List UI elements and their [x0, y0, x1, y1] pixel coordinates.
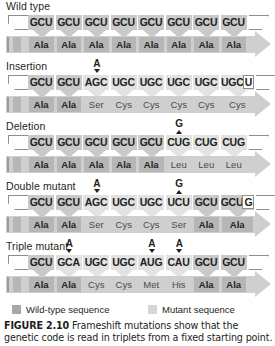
up-triangle-icon [176, 190, 182, 194]
chain-start-block [13, 157, 21, 172]
codon: UGC [138, 75, 164, 90]
codon: UGC [111, 255, 137, 270]
strand-left-end [8, 135, 28, 150]
mutation-panel: Double mutantGCUGCUAGCUGCUGCUCUGCUGCUGAG… [0, 180, 275, 240]
codon: UGC [138, 195, 164, 210]
amino-acid: Ala [194, 37, 219, 52]
amino-acid: Cys [112, 97, 137, 112]
insertion-marker: A [172, 239, 186, 253]
down-arrow-icon [94, 69, 100, 73]
amino-acid: Cys [112, 217, 137, 232]
codon: GCU [83, 135, 109, 150]
protein-chain-arrowhead-icon [255, 91, 271, 117]
amino-acid: Cys [194, 97, 219, 112]
protein-chain-arrowhead-icon [255, 271, 271, 297]
figure-caption: FIGURE 2.10 Frameshift mutations show th… [4, 320, 274, 344]
codon: GCU [28, 255, 54, 270]
marker-base-label: A [90, 179, 104, 189]
amino-acid: Ala [29, 37, 54, 52]
amino-acid: Met [139, 277, 164, 292]
codon: CUG [221, 135, 247, 150]
codon: GCU [56, 75, 82, 90]
codon: AGC [83, 75, 109, 90]
amino-acid: Ser [84, 217, 109, 232]
caption-label: FIGURE 2.10 [4, 320, 69, 331]
protein-chain-arrowhead-icon [255, 31, 271, 57]
amino-acid: Cys [222, 97, 254, 112]
codon: GCU [28, 75, 54, 90]
strand-right-end [249, 15, 269, 30]
amino-acid: Ala [57, 37, 82, 52]
codon: GCU [221, 255, 247, 270]
amino-acid: Ala [167, 37, 192, 52]
amino-acid: Ala [112, 157, 137, 172]
codon: UGC [193, 75, 219, 90]
codon: GCA [56, 255, 82, 270]
codon: GCU [56, 135, 82, 150]
strand-left-end [8, 75, 28, 90]
codon: GCU [166, 15, 192, 30]
amino-acid: Ala [222, 217, 254, 232]
chain-start-tick [7, 157, 9, 172]
amino-acid: Ala [57, 157, 82, 172]
strand-left-end [8, 15, 28, 30]
codon: CAU [166, 255, 192, 270]
amino-acid: Cys [167, 97, 192, 112]
amino-acid: Ala [84, 157, 109, 172]
codon: AGC [83, 195, 109, 210]
codon: GCU [193, 255, 219, 270]
amino-acid: Ala [29, 217, 54, 232]
amino-acid: Ala [222, 277, 247, 292]
amino-acid: Leu [222, 157, 247, 172]
amino-acid: Ala [139, 37, 164, 52]
insertion-marker: A [62, 239, 76, 253]
insertion-marker: A [145, 239, 159, 253]
deletion-marker: G [172, 179, 186, 194]
codon: GCU [193, 15, 219, 30]
strand-right-end [256, 75, 275, 90]
codon: GCU [138, 135, 164, 150]
insertion-marker: A [90, 179, 104, 193]
codon: GCU [221, 15, 247, 30]
amino-acid: Cys [139, 217, 164, 232]
panel-label: Double mutant [6, 180, 76, 192]
marker-base-label: A [90, 59, 104, 69]
amino-acid: Ala [57, 217, 82, 232]
marker-base-label: A [172, 239, 186, 249]
codon: UGC [166, 75, 192, 90]
codon: GCU [111, 135, 137, 150]
figure-legend: Wild-type sequence Mutant sequence [0, 303, 275, 319]
amino-acid: Leu [167, 157, 192, 172]
codon: UCU [166, 195, 192, 210]
amino-acid: Leu [194, 157, 219, 172]
down-arrow-icon [66, 249, 72, 253]
frameshift-mutation-figure: Wild typeGCUGCUGCUGCUGCUGCUGCUGCUAlaAlaA… [0, 0, 275, 346]
strand-right-end [256, 195, 275, 210]
amino-acid: Cys [112, 277, 137, 292]
amino-acid: Ala [57, 277, 82, 292]
amino-acid: Ala [29, 157, 54, 172]
codon: GCUG [221, 195, 254, 210]
chain-start-tick [7, 97, 9, 112]
codon: UGC [111, 195, 137, 210]
amino-acid: Ala [84, 37, 109, 52]
amino-acid: Ser [84, 97, 109, 112]
codon: GCU [193, 195, 219, 210]
amino-acid: Ser [167, 217, 192, 232]
amino-acid: Ala [29, 277, 54, 292]
mutant-swatch-icon [148, 305, 157, 314]
chain-start-tick [7, 217, 9, 232]
up-triangle-icon [176, 130, 182, 134]
strand-right-end [249, 135, 269, 150]
amino-acid: Ala [194, 277, 219, 292]
marker-base-label: G [172, 179, 186, 189]
chain-start-tick [7, 277, 9, 292]
mutation-panel: InsertionGCUGCUAGCUGCUGCUGCUGCUGCUAAlaAl… [0, 60, 275, 120]
amino-acid: Ala [139, 157, 164, 172]
codon: AUG [138, 255, 164, 270]
amino-acid: Ala [194, 217, 219, 232]
codon: GCU [83, 15, 109, 30]
amino-acid: Ala [29, 97, 54, 112]
chain-start-block [13, 37, 21, 52]
amino-acid: Ala [57, 97, 82, 112]
